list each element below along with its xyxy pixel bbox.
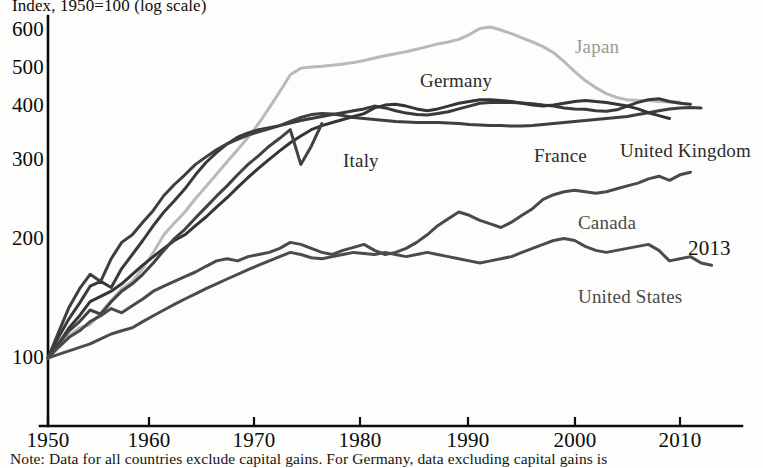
y-tick-300: 300 bbox=[0, 147, 44, 172]
series-line-united-kingdom bbox=[48, 100, 670, 358]
series-label-canada: Canada bbox=[578, 212, 636, 234]
series-label-united-states: United States bbox=[578, 286, 682, 308]
x-tick-marks bbox=[48, 417, 680, 426]
series-label-united-kingdom: United Kingdom bbox=[620, 140, 751, 162]
series-label-italy: Italy bbox=[343, 150, 379, 172]
y-tick-600: 600 bbox=[0, 17, 44, 42]
chart-note: Note: Data for all countries exclude cap… bbox=[10, 450, 607, 468]
series-label-germany: Germany bbox=[420, 70, 492, 92]
series-label-france: France bbox=[534, 145, 587, 167]
series-label-japan: Japan bbox=[575, 36, 619, 58]
end-year-annotation: 2013 bbox=[688, 236, 731, 261]
y-tick-100: 100 bbox=[0, 345, 44, 370]
y-tick-500: 500 bbox=[0, 55, 44, 80]
y-tick-400: 400 bbox=[0, 93, 44, 118]
series-paths bbox=[48, 27, 712, 358]
x-tick-2010: 2010 bbox=[645, 428, 715, 453]
y-tick-200: 200 bbox=[0, 226, 44, 251]
